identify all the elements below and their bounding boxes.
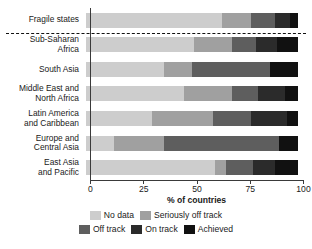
legend-label: No data [104,210,134,220]
category-label: Sub-Saharan Africa [0,35,84,54]
bar-segment [226,160,254,175]
x-axis-tick-label: 0 [88,184,93,194]
bar-segment [86,86,184,101]
bar-segment [194,37,232,52]
bar-segment [232,86,257,101]
bar-segment [275,13,290,28]
bar-segment [164,136,278,151]
bar-row: Middle East and North Africa [0,82,312,107]
bar-segment [270,62,298,77]
bar-segment [184,86,233,101]
bar-segment [258,86,286,101]
bar-segment [213,111,251,126]
bar-row: Europe and Central Asia [0,131,312,156]
bar-segment [192,62,270,77]
stacked-bar [86,136,298,151]
bar-segment [285,86,298,101]
stacked-bar [86,13,298,28]
bar-segment [86,37,194,52]
bar-segment [222,13,252,28]
bar-row: Latin America and Caribbean [0,106,312,131]
bar-segment [251,13,274,28]
bar-segment [287,111,298,126]
legend-item[interactable]: On track [131,224,177,234]
legend-label: Seriously off track [154,210,222,220]
category-label: Europe and Central Asia [0,134,84,153]
category-label: South Asia [0,65,84,75]
x-axis-tick-label: 25 [139,184,149,194]
stacked-bar [86,111,298,126]
x-axis-title: % of countries [90,195,303,205]
bar-segment [215,160,226,175]
bar-row: Sub-Saharan Africa [0,33,312,58]
legend: No dataSeriously off track Off trackOn t… [0,208,312,236]
fragile-states-divider [6,33,306,34]
legend-item[interactable]: Achieved [184,224,233,234]
bar-segment [253,160,274,175]
legend-swatch-icon [140,211,151,220]
x-axis-tick-label: 50 [192,184,202,194]
stacked-bar [86,160,298,175]
bar-segment [279,136,298,151]
legend-label: Off track [93,224,125,234]
bar-segment [152,111,213,126]
legend-item[interactable]: Off track [79,224,125,234]
legend-swatch-icon [131,225,142,234]
legend-label: Achieved [198,224,233,234]
bar-row: East Asia and Pacific [0,155,312,180]
bar-segment [86,111,152,126]
stacked-bar [86,37,298,52]
x-axis-tick-label: 75 [245,184,255,194]
legend-row-primary: No dataSeriously off track [0,208,312,222]
bar-segment [256,37,277,52]
bar-segment [275,160,298,175]
bar-row: South Asia [0,57,312,82]
bar-segment [86,160,215,175]
bar-segment [86,62,164,77]
legend-label: On track [145,224,177,234]
legend-item[interactable]: Seriously off track [140,210,222,220]
category-label: Latin America and Caribbean [0,109,84,128]
bar-segment [277,37,298,52]
legend-row-secondary: Off trackOn trackAchieved [0,222,312,236]
stacked-bar-chart: Fragile statesSub-Saharan AfricaSouth As… [0,0,312,249]
category-label: Fragile states [0,15,84,25]
legend-swatch-icon [184,225,195,234]
bar-segment [290,13,298,28]
bar-segment [164,62,192,77]
bar-row: Fragile states [0,8,312,33]
bar-segment [114,136,165,151]
bar-segment [232,37,255,52]
stacked-bar [86,86,298,101]
legend-swatch-icon [79,225,90,234]
bar-segment [251,111,287,126]
stacked-bar [86,62,298,77]
category-label: East Asia and Pacific [0,158,84,177]
bar-segment [86,13,222,28]
x-axis-tick-label: 100 [296,184,310,194]
legend-item[interactable]: No data [90,210,134,220]
category-label: Middle East and North Africa [0,84,84,103]
legend-swatch-icon [90,211,101,220]
